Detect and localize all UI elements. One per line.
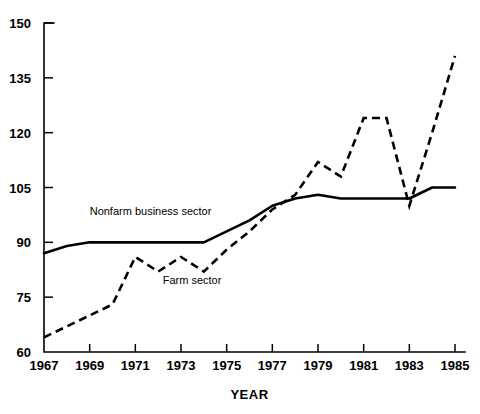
x-axis-tick-label: 1985 bbox=[441, 358, 470, 373]
x-axis-tick-label: 1975 bbox=[212, 358, 241, 373]
y-axis-tick-labels: 607590105120135150 bbox=[9, 16, 31, 360]
x-axis-tick-label: 1973 bbox=[167, 358, 196, 373]
y-axis-tick-label: 90 bbox=[17, 235, 31, 250]
y-axis-tick-marks bbox=[44, 23, 53, 297]
x-axis-tick-label: 1979 bbox=[304, 358, 333, 373]
y-axis-tick-label: 105 bbox=[9, 181, 31, 196]
y-axis-tick-label: 120 bbox=[9, 126, 31, 141]
series-label-farm-sector: Farm sector bbox=[163, 274, 222, 286]
y-axis-tick-label: 150 bbox=[9, 16, 31, 31]
x-axis-title: YEAR bbox=[230, 387, 268, 402]
y-axis-tick-label: 75 bbox=[17, 290, 31, 305]
line-chart: 607590105120135150 196719691971197319751… bbox=[0, 0, 480, 414]
x-axis-tick-label: 1981 bbox=[349, 358, 378, 373]
x-axis-tick-label: 1977 bbox=[258, 358, 287, 373]
chart-axes bbox=[44, 23, 465, 352]
y-axis-tick-label: 135 bbox=[9, 71, 31, 86]
x-axis-tick-label: 1967 bbox=[30, 358, 59, 373]
chart-container: 607590105120135150 196719691971197319751… bbox=[0, 0, 480, 414]
x-axis-tick-labels: 1967196919711973197519771979198119831985 bbox=[30, 358, 470, 373]
x-axis-tick-label: 1971 bbox=[121, 358, 150, 373]
series-label-nonfarm-business-sector: Nonfarm business sector bbox=[90, 205, 212, 217]
series-line-nonfarm-business-sector bbox=[44, 188, 455, 254]
x-axis-tick-label: 1983 bbox=[395, 358, 424, 373]
series-line-farm-sector bbox=[44, 56, 455, 337]
x-axis-tick-marks bbox=[90, 344, 455, 352]
x-axis-tick-label: 1969 bbox=[75, 358, 104, 373]
